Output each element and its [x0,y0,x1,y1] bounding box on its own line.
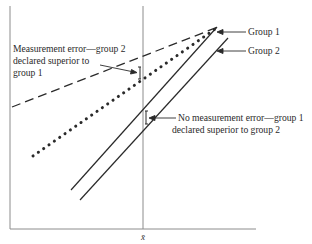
annotation-line: No measurement error—group 1 [178,112,304,123]
no-error-annotation: No measurement error—group 1 declared su… [172,112,304,135]
annotation-line: declared superior to [13,55,89,66]
arrow-head-icon [149,116,155,121]
dashed-regression-line [12,27,218,107]
mean-label: x̄ [140,232,146,242]
measurement-error-bracket [138,67,141,79]
measurement-error-annotation: Measurement error—group 2 declared super… [13,43,126,78]
annotation-line: group 1 [13,67,43,78]
regression-diagram: x̄ [0,0,312,244]
arrow-head-icon [217,30,223,35]
group1-label: Group 1 [248,26,280,37]
annotation-line: declared superior to group 2 [172,124,280,135]
annotation-line: Measurement error—group 2 [13,43,126,54]
arrow-head-icon [131,70,138,75]
group2-label: Group 2 [248,45,280,56]
no-error-bracket [145,111,148,124]
